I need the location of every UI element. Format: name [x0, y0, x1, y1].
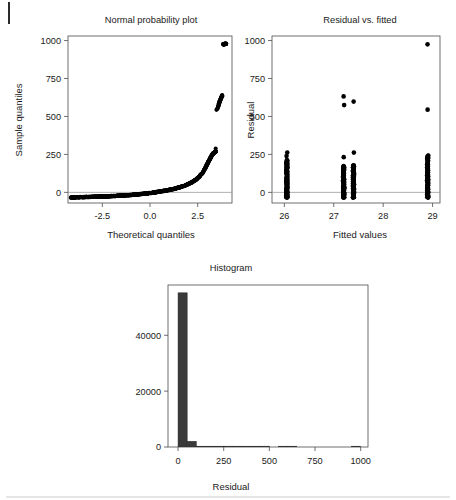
- hist-ytick-label: 40000: [135, 331, 161, 341]
- resid-xtick-label: 27: [329, 211, 339, 221]
- normal-probability-plot-panel: Normal probability plot 02505007501000-2…: [0, 0, 240, 250]
- resid-ytick-label: 250: [250, 150, 265, 160]
- hist-bar: [205, 446, 214, 447]
- hist-xtick-label: 1000: [350, 456, 370, 466]
- qq-panel-title: Normal probability plot: [105, 15, 198, 25]
- hist-xtick-label: 750: [307, 456, 322, 466]
- qq-point-layer: [69, 42, 228, 200]
- hist-bar: [288, 446, 297, 447]
- resid-data-point: [426, 153, 430, 157]
- resid-outlier-point: [341, 94, 346, 99]
- resid-ytick-label: 750: [250, 74, 265, 84]
- resid-data-point: [341, 164, 345, 168]
- qq-ytick-label: 0: [56, 188, 61, 198]
- resid-panel-title: Residual vs. fitted: [323, 15, 396, 25]
- resid-xtick-label: 28: [378, 211, 388, 221]
- hist-bar: [352, 446, 361, 447]
- resid-outlier-point: [425, 107, 430, 112]
- residual-vs-fitted-panel: Residual vs. fitted 02505007501000262728…: [240, 0, 456, 250]
- qq-xtick-label: 2.5: [191, 211, 204, 221]
- qq-ytick-label: 1000: [41, 36, 61, 46]
- resid-outlier-point: [351, 99, 356, 104]
- hist-xaxis-label: Residual: [213, 481, 250, 492]
- qq-ytick-label: 750: [46, 74, 61, 84]
- diagnostic-plots-figure: Normal probability plot 02505007501000-2…: [0, 0, 456, 500]
- resid-ytick-label: 1000: [245, 36, 265, 46]
- hist-bar: [196, 446, 205, 447]
- resid-outlier-point: [285, 150, 290, 155]
- hist-bar: [260, 446, 269, 447]
- resid-data-point: [285, 158, 289, 162]
- hist-bar: [279, 446, 288, 447]
- resid-outlier-point: [341, 155, 346, 160]
- hist-panel-title: Histogram: [210, 263, 253, 273]
- resid-ytick-label: 0: [260, 188, 265, 198]
- hist-ytick-label: 20000: [135, 387, 161, 397]
- hist-bar: [224, 446, 233, 447]
- qq-data-point: [214, 147, 218, 151]
- resid-outlier-point: [342, 103, 347, 108]
- qq-plot-frame: [68, 36, 232, 203]
- hist-bar: [178, 293, 187, 447]
- resid-data-point: [352, 163, 356, 167]
- hist-ytick-label: 0: [156, 442, 161, 452]
- histogram-panel: Histogram 0200004000002505007501000 Resi…: [0, 250, 456, 500]
- qq-outlier-point: [223, 42, 228, 47]
- resid-point-layer: [284, 42, 431, 200]
- hist-xtick-label: 250: [216, 456, 231, 466]
- qq-ytick-label: 500: [46, 112, 61, 122]
- hist-plot-frame: [168, 285, 368, 447]
- hist-bar: [233, 446, 242, 447]
- resid-xaxis-label: Fitted values: [333, 229, 387, 240]
- hist-xtick-label: 500: [262, 456, 277, 466]
- resid-outlier-point: [425, 42, 430, 47]
- resid-yaxis-label: Residual: [245, 102, 256, 139]
- qq-xtick-label: -2.5: [94, 211, 110, 221]
- qq-xaxis-label: Theoretical quantiles: [107, 229, 195, 240]
- qq-yaxis-label: Sample quantiles: [13, 83, 24, 156]
- hist-bar-layer: [178, 293, 361, 447]
- resid-plot-frame: [272, 36, 440, 203]
- hist-bar: [251, 446, 260, 447]
- hist-xtick-label: 0: [175, 456, 180, 466]
- hist-bar: [242, 446, 251, 447]
- qq-xtick-label: 0.0: [144, 211, 157, 221]
- hist-bar: [187, 441, 196, 447]
- qq-ytick-label: 250: [46, 150, 61, 160]
- hist-bar: [215, 446, 224, 447]
- resid-xtick-label: 29: [427, 211, 437, 221]
- qq-data-point: [220, 93, 224, 97]
- resid-xtick-label: 26: [279, 211, 289, 221]
- resid-outlier-point: [352, 150, 357, 155]
